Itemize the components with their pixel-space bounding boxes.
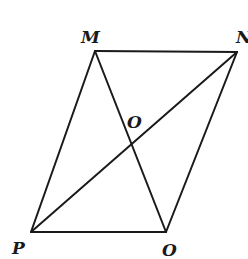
diagonal-MQ: [95, 51, 166, 232]
vertex-label-N: N: [235, 27, 248, 47]
geometry-diagram: M N P O O: [0, 0, 248, 259]
intersection-label-O: O: [127, 112, 142, 132]
vertex-label-Q: O: [162, 240, 177, 259]
side-MN: [95, 51, 237, 52]
side-NQ: [166, 52, 237, 232]
vertex-label-P: P: [11, 238, 26, 258]
vertex-label-M: M: [80, 27, 101, 47]
